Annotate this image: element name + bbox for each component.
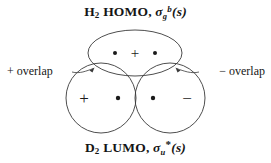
nucleus-dot-top-left [113,51,117,55]
bottom-right-lobe-phase-sign: − [182,89,192,108]
nucleus-dot-bottom-right [151,96,155,100]
nucleus-dot-bottom-left [116,96,120,100]
nucleus-dot-top-right [153,51,157,55]
top-lobe-phase-sign: + [131,45,139,61]
bottom-left-lobe-outline [66,63,136,133]
bottom-right-lobe-outline [135,63,205,133]
orbital-diagram-svg: + + − [0,0,271,163]
bottom-left-lobe-phase-sign: + [79,89,89,108]
orbital-overlap-figure: H2 HOMO, σgb(s) D2 LUMO, σu*(s) + overla… [0,0,271,163]
